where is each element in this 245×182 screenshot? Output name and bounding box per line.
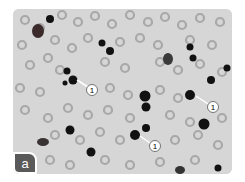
annotation-label: 1 [211,103,216,112]
annotation-label: 1 [90,86,95,95]
panel-label: a [13,152,37,174]
blood-smear-image: 1 1 1 [13,9,232,174]
micrograph: 1 1 1 [13,9,232,174]
annotation-label: 1 [153,142,158,151]
